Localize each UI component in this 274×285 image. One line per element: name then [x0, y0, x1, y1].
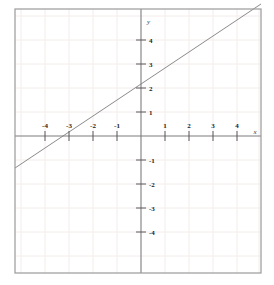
y-tick-label: 2	[149, 85, 153, 93]
x-tick-label: -3	[66, 122, 72, 130]
y-tick-label: -2	[149, 181, 155, 189]
cartesian-line-graph: -4 -3 -2 -1 1 2 3 4 4 3 2 1 -1 -2 -3 -4 …	[0, 0, 274, 285]
x-tick-label: 2	[187, 122, 191, 130]
y-tick-label: 1	[149, 109, 153, 117]
y-tick-label: -1	[149, 157, 155, 165]
plot-background	[15, 9, 261, 273]
y-tick-label: -3	[149, 205, 155, 213]
x-tick-label: -4	[42, 122, 48, 130]
x-tick-label: -1	[114, 122, 120, 130]
x-tick-label: 4	[235, 122, 239, 130]
y-tick-label: -4	[149, 229, 155, 237]
x-tick-label: -2	[90, 122, 96, 130]
y-tick-label: 3	[149, 61, 153, 69]
x-tick-label: 3	[211, 122, 215, 130]
graph-canvas: -4 -3 -2 -1 1 2 3 4 4 3 2 1 -1 -2 -3 -4 …	[0, 0, 274, 285]
x-tick-label: 1	[163, 122, 167, 130]
y-tick-label: 4	[149, 37, 153, 45]
